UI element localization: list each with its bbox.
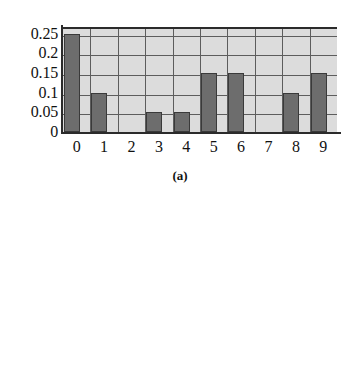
x-tick-label: 4 <box>182 136 190 158</box>
x-tick-label: 2 <box>128 136 136 158</box>
bar <box>146 112 162 132</box>
x-tick-label: 7 <box>265 136 273 158</box>
bar <box>201 73 217 132</box>
figure-caption-a: (a) <box>0 168 360 184</box>
plot-area-a <box>63 27 337 132</box>
y-tick-label: 0.1 <box>39 85 58 101</box>
bar <box>174 112 190 132</box>
x-tick-label: 1 <box>100 136 108 158</box>
x-tick-label: 6 <box>237 136 245 158</box>
y-axis-labels-a: 0.250.20.150.10.050 <box>0 0 58 196</box>
x-tick-label: 3 <box>155 136 163 158</box>
bar <box>311 73 327 132</box>
x-tick-label: 8 <box>292 136 300 158</box>
y-tick-label: 0.15 <box>31 65 58 81</box>
y-tick-label: 0.05 <box>31 104 58 120</box>
chart-panel-a: 0.250.20.150.10.050 0123456789 (a) <box>0 0 360 196</box>
x-axis-labels-a: 0123456789 <box>63 136 337 158</box>
x-tick-label: 9 <box>319 136 327 158</box>
x-axis-line-a <box>61 132 341 134</box>
gridline-vertical <box>118 29 119 132</box>
x-tick-label: 5 <box>210 136 218 158</box>
y-tick-label: 0.25 <box>31 26 58 42</box>
x-tick-label: 0 <box>73 136 81 158</box>
gridline-vertical <box>255 29 256 132</box>
y-axis-line-a <box>61 25 63 134</box>
y-tick-label: 0.2 <box>39 45 58 61</box>
bar <box>91 93 107 132</box>
y-tick-label: 0 <box>50 124 58 140</box>
bar <box>283 93 299 132</box>
bar <box>228 73 244 132</box>
bar <box>64 34 80 132</box>
